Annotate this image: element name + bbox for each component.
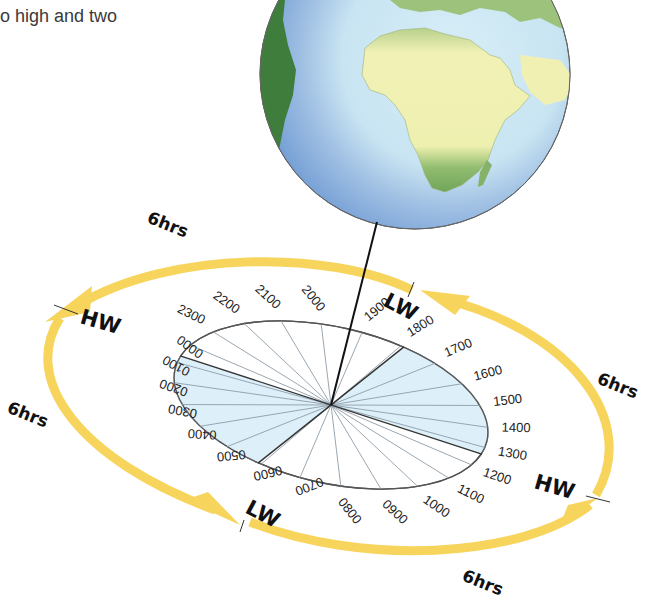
hour-label: 1300 [497,443,528,463]
hour-label: 0000 [174,332,206,361]
hour-label: 1000 [420,492,452,521]
hour-label: 2200 [210,288,242,317]
hrs-label-left: 6hrs [5,397,52,431]
arrow-arc-bottom [250,505,590,551]
hrs-label-top-left: 6hrs [145,207,192,241]
hour-label: 0600 [252,463,284,484]
earth-globe [250,0,580,229]
tide-diagram: 0000010002000300040005000600070008000900… [0,0,662,611]
hw-label-left: HW [78,305,124,339]
hrs-label-right: 6hrs [595,368,642,402]
hour-label: 1400 [501,419,530,435]
hour-label: 1600 [472,362,504,384]
hour-label: 1500 [492,391,522,409]
hour-label: 1100 [455,481,487,507]
hour-label: 0400 [187,426,217,443]
hour-label: 0800 [335,495,365,527]
hw-label-right: HW [532,470,578,504]
hour-label: 2100 [253,281,284,312]
hour-label: 2300 [175,301,208,327]
hrs-label-bottom: 6hrs [460,565,507,599]
hour-label: 0900 [380,497,411,528]
hour-label: 2000 [299,282,329,314]
hour-label: 1200 [481,464,513,487]
tick-lw-bottom [240,520,244,532]
hour-label: 0500 [216,447,246,465]
arrowhead-top-right [420,290,470,315]
hour-label: 1700 [442,335,474,360]
